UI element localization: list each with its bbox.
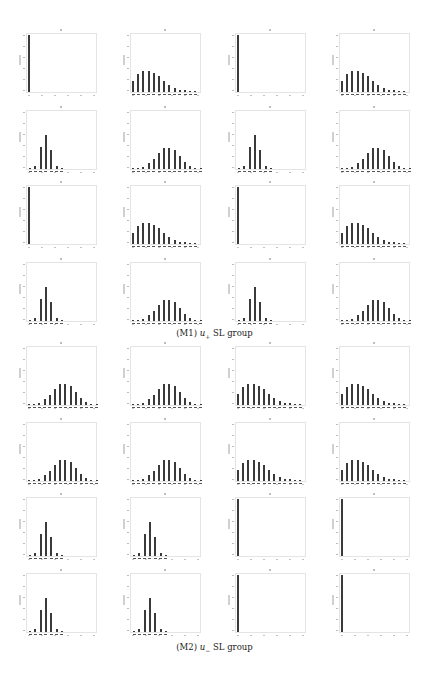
- x-tick: [41, 635, 43, 636]
- histogram-bar: [29, 631, 31, 632]
- x-tick: [354, 324, 356, 325]
- x-tick: [263, 635, 265, 636]
- bar-baseline-marker: [387, 171, 390, 172]
- y-tick: [232, 359, 234, 360]
- y-axis-label: [228, 595, 230, 605]
- y-tick: [23, 167, 25, 168]
- x-tick: [197, 484, 199, 485]
- y-tick: [336, 90, 338, 91]
- x-tick: [250, 247, 252, 248]
- histogram-bar: [357, 163, 359, 169]
- histogram-bar: [54, 389, 56, 405]
- y-tick: [336, 167, 338, 168]
- plot-title: [373, 29, 375, 31]
- y-tick: [232, 286, 234, 287]
- bar-baseline-marker: [377, 483, 380, 484]
- x-tick: [93, 324, 95, 325]
- histogram-bar: [61, 320, 63, 321]
- histogram-bar: [179, 242, 181, 244]
- bar-baseline-marker: [43, 407, 46, 408]
- x-tick: [28, 559, 30, 560]
- x-tick: [276, 484, 278, 485]
- histogram-bar: [184, 162, 186, 169]
- plot-frame: [130, 422, 201, 482]
- y-axis-label: [332, 444, 334, 454]
- bar-baseline-marker: [273, 407, 276, 408]
- histogram-bar: [148, 223, 150, 244]
- histogram-bar: [346, 320, 348, 321]
- x-tick: [28, 172, 30, 173]
- x-tick: [341, 635, 343, 636]
- histogram-m2-r2c2: [235, 497, 306, 557]
- bar-baseline-marker: [259, 323, 262, 324]
- histogram-bar: [189, 243, 191, 244]
- bar-baseline-marker: [341, 171, 344, 172]
- y-tick: [232, 187, 234, 188]
- bar-baseline-marker: [268, 407, 271, 408]
- histogram-bar: [357, 460, 359, 481]
- histogram-bar: [254, 287, 256, 321]
- x-tick: [67, 324, 69, 325]
- x-tick: [237, 635, 239, 636]
- y-tick: [23, 297, 25, 298]
- histogram-bar: [367, 465, 369, 481]
- x-tick: [184, 247, 186, 248]
- y-tick: [23, 403, 25, 404]
- x-tick: [289, 635, 291, 636]
- x-tick: [341, 324, 343, 325]
- y-tick: [232, 112, 234, 113]
- x-tick: [41, 247, 43, 248]
- histogram-bar: [294, 404, 296, 405]
- y-tick: [232, 231, 234, 232]
- bar-baseline-marker: [33, 483, 36, 484]
- histogram-bar: [243, 318, 245, 321]
- bar-baseline-marker: [50, 634, 53, 635]
- x-tick: [276, 247, 278, 248]
- histogram-bar: [346, 226, 348, 244]
- histogram-bar: [34, 166, 36, 169]
- histogram-bar: [28, 480, 30, 481]
- y-axis-label: [123, 444, 125, 454]
- bar-baseline-marker: [95, 407, 98, 408]
- histogram-bar: [158, 465, 160, 481]
- bar-baseline-marker: [133, 634, 136, 635]
- bar-baseline-marker: [69, 483, 72, 484]
- x-tick: [145, 635, 147, 636]
- bar-baseline-marker: [159, 634, 162, 635]
- bar-baseline-marker: [372, 483, 375, 484]
- y-tick: [336, 392, 338, 393]
- x-tick: [54, 635, 56, 636]
- x-tick: [276, 559, 278, 560]
- y-axis-label: [123, 284, 125, 294]
- plot-frame: [339, 573, 410, 633]
- histogram-bar: [362, 159, 364, 169]
- bar-baseline-marker: [74, 483, 77, 484]
- y-tick: [127, 134, 129, 135]
- bar-baseline-marker: [138, 634, 141, 635]
- x-tick: [80, 324, 82, 325]
- bar-baseline-marker: [372, 323, 375, 324]
- histogram-bar: [61, 555, 63, 556]
- histogram-bar: [132, 480, 134, 481]
- y-tick: [232, 468, 234, 469]
- bar-baseline-marker: [356, 171, 359, 172]
- histogram-bar: [138, 629, 140, 632]
- x-tick: [341, 172, 343, 173]
- histogram-bar: [357, 315, 359, 321]
- histogram-bar: [279, 477, 281, 481]
- y-tick: [23, 145, 25, 146]
- plot-title: [164, 342, 166, 344]
- plot-title: [164, 258, 166, 260]
- y-tick: [127, 35, 129, 36]
- histogram-bar: [142, 167, 144, 169]
- histogram-m2-r3c3: [339, 573, 410, 633]
- caption-m2-prefix: (M2): [176, 642, 199, 652]
- histogram-m2-r1c3: [339, 422, 410, 482]
- y-tick: [336, 575, 338, 576]
- y-axis-label: [228, 55, 230, 65]
- bar-baseline-marker: [29, 323, 32, 324]
- histogram-bar: [154, 537, 156, 556]
- histogram-bar: [153, 311, 155, 321]
- histogram-bar: [377, 237, 379, 244]
- histogram-bar: [189, 318, 191, 321]
